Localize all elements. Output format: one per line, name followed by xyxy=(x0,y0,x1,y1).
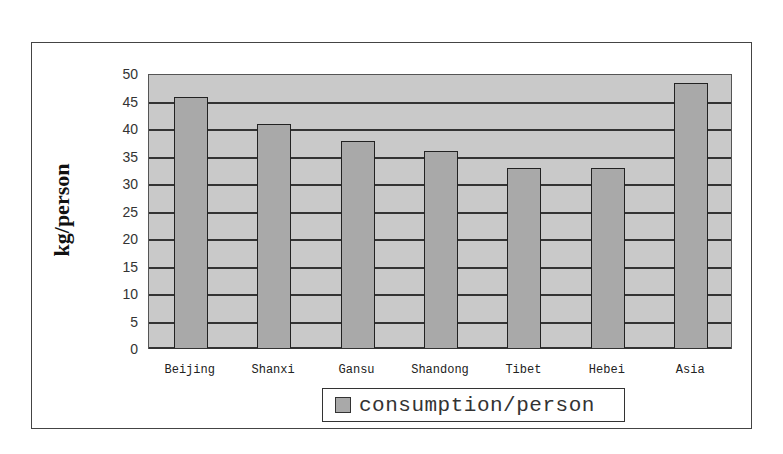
y-tick-label: 30 xyxy=(108,176,138,192)
bar-hebei xyxy=(591,168,625,348)
y-tick-label: 20 xyxy=(108,231,138,247)
bar-shanxi xyxy=(257,124,291,348)
bar-asia xyxy=(674,83,708,348)
plot-area xyxy=(148,74,732,349)
y-axis-label: kg/person xyxy=(49,164,75,257)
x-category-label: Shandong xyxy=(398,363,481,377)
y-tick-label: 35 xyxy=(108,149,138,165)
y-tick-label: 45 xyxy=(108,94,138,110)
gridline xyxy=(149,129,731,131)
x-category-label: Shanxi xyxy=(231,363,314,377)
x-category-label: Gansu xyxy=(315,363,398,377)
y-tick-label: 5 xyxy=(108,314,138,330)
x-category-label: Tibet xyxy=(482,363,565,377)
legend-swatch-icon xyxy=(335,397,351,413)
bar-gansu xyxy=(341,141,375,348)
gridline xyxy=(149,102,731,104)
legend-label: consumption/person xyxy=(359,394,595,417)
y-tick-label: 15 xyxy=(108,259,138,275)
y-tick-label: 25 xyxy=(108,204,138,220)
legend: consumption/person xyxy=(322,388,625,422)
y-tick-label: 40 xyxy=(108,121,138,137)
y-tick-label: 10 xyxy=(108,286,138,302)
y-tick-label: 0 xyxy=(108,341,138,357)
y-tick-label: 50 xyxy=(108,66,138,82)
x-category-label: Hebei xyxy=(565,363,648,377)
bar-beijing xyxy=(174,97,208,348)
bar-shandong xyxy=(424,151,458,348)
bar-tibet xyxy=(507,168,541,348)
x-category-label: Beijing xyxy=(148,363,231,377)
x-category-label: Asia xyxy=(649,363,732,377)
